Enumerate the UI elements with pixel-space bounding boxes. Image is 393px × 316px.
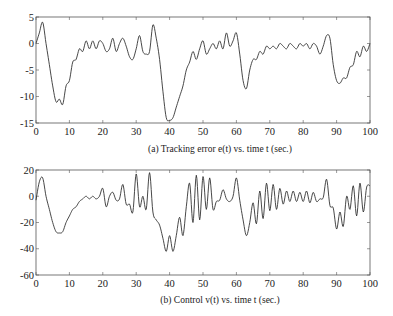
y-tick-label: -15 xyxy=(20,118,34,129)
plot-a-y-tick-labels: 50-5-10-15 xyxy=(20,12,34,129)
figure: 50-5-10-15 0102030405060708090100 (a) Tr… xyxy=(0,0,393,316)
tracking-error-plot: 50-5-10-15 0102030405060708090100 (a) Tr… xyxy=(20,12,378,156)
plot-b-axes-frame xyxy=(36,170,370,275)
x-tick-label: 70 xyxy=(265,126,276,137)
x-tick-label: 100 xyxy=(362,278,378,289)
x-tick-label: 0 xyxy=(33,126,38,137)
plot-b-x-tick-labels: 0102030405060708090100 xyxy=(33,278,378,289)
x-tick-label: 10 xyxy=(64,126,75,137)
x-tick-label: 30 xyxy=(131,278,142,289)
y-tick-label: -10 xyxy=(20,91,34,102)
y-tick-label: 0 xyxy=(29,38,34,49)
x-tick-label: 100 xyxy=(362,126,378,137)
y-tick-label: 0 xyxy=(29,191,34,202)
x-tick-label: 80 xyxy=(298,278,309,289)
x-tick-label: 30 xyxy=(131,126,142,137)
y-tick-label: 20 xyxy=(24,165,35,176)
x-tick-label: 90 xyxy=(331,126,342,137)
x-tick-label: 40 xyxy=(164,278,175,289)
plot-a-x-tick-labels: 0102030405060708090100 xyxy=(33,126,378,137)
x-tick-label: 0 xyxy=(33,278,38,289)
control-plot: 200-20-40-60 0102030405060708090100 (b) … xyxy=(20,165,378,307)
x-tick-label: 40 xyxy=(164,126,175,137)
x-tick-label: 50 xyxy=(198,126,209,137)
tracking-error-line xyxy=(36,22,370,121)
plot-a-axes-frame xyxy=(36,17,370,123)
x-tick-label: 60 xyxy=(231,278,242,289)
x-tick-label: 90 xyxy=(331,278,342,289)
x-tick-label: 20 xyxy=(98,126,109,137)
y-tick-label: -20 xyxy=(20,217,34,228)
control-line xyxy=(36,173,370,252)
y-tick-label: 5 xyxy=(29,12,34,23)
x-tick-label: 70 xyxy=(265,278,276,289)
x-tick-label: 50 xyxy=(198,278,209,289)
plot-b-y-tick-labels: 200-20-40-60 xyxy=(20,165,34,281)
plot-a-caption: (a) Tracking error e(t) vs. time t (sec.… xyxy=(148,144,292,155)
plot-b-caption: (b) Control v(t) vs. time t (sec.) xyxy=(160,295,279,306)
x-tick-label: 60 xyxy=(231,126,242,137)
x-tick-label: 20 xyxy=(98,278,109,289)
y-tick-label: -5 xyxy=(25,65,34,76)
y-tick-label: -40 xyxy=(20,243,34,254)
x-tick-label: 10 xyxy=(64,278,75,289)
y-tick-label: -60 xyxy=(20,270,34,281)
plot-b-ticks xyxy=(36,170,370,275)
plot-a-ticks xyxy=(36,17,370,123)
x-tick-label: 80 xyxy=(298,126,309,137)
